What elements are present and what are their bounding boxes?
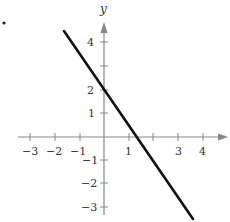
x-tick-label: −3 — [22, 145, 38, 158]
y-tick-label: −3 — [81, 201, 97, 214]
y-tick-labels: 4 2 1 −1 −2 −3 — [81, 36, 98, 214]
x-tick-label: 3 — [175, 145, 182, 158]
x-tick-label: −2 — [46, 145, 62, 158]
y-tick-label: −2 — [81, 177, 97, 190]
x-tick-label: 1 — [125, 145, 132, 158]
y-axis-label: y — [99, 2, 107, 16]
y-tick-label: 2 — [87, 84, 94, 97]
graph: y −3 −2 −1 1 3 4 4 2 1 −1 −2 −3 — [0, 0, 230, 222]
x-tick-labels: −3 −2 −1 1 3 4 — [22, 145, 206, 158]
y-tick-label: −1 — [82, 154, 98, 167]
y-axis-arrow-icon — [101, 22, 108, 33]
y-tick-label: 1 — [88, 107, 95, 120]
data-line — [64, 31, 193, 219]
bullet-marker — [2, 21, 5, 24]
x-axis-arrow-icon — [218, 134, 228, 141]
x-tick-label: 4 — [199, 145, 206, 158]
y-tick-label: 4 — [87, 36, 94, 49]
